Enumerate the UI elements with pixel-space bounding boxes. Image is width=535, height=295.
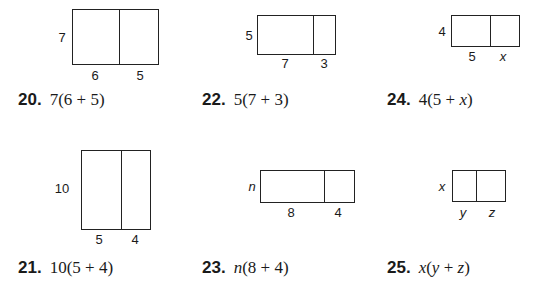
problem-label: 24.4(5 + x) bbox=[387, 90, 473, 110]
rectangle-divider bbox=[476, 171, 477, 201]
area-rectangle bbox=[257, 15, 336, 55]
area-rectangle bbox=[260, 170, 355, 203]
area-rectangle bbox=[81, 150, 151, 230]
area-rectangle bbox=[451, 15, 520, 47]
problem-expression: x(y + z) bbox=[419, 258, 470, 277]
part-width-label: 5 bbox=[95, 233, 102, 246]
problem-expression: 7(6 + 5) bbox=[50, 90, 105, 109]
problem-label: 21.10(5 + 4) bbox=[18, 258, 113, 278]
problem-label: 23.n(8 + 4) bbox=[202, 258, 289, 278]
problem-number: 23. bbox=[202, 258, 226, 277]
part-width-label: z bbox=[489, 206, 496, 219]
problem-label: 25.x(y + z) bbox=[387, 258, 470, 278]
area-rectangle bbox=[452, 170, 506, 202]
side-length-label: 4 bbox=[438, 25, 445, 38]
part-width-label: y bbox=[460, 206, 467, 219]
part-width-label: 5 bbox=[468, 50, 475, 63]
problem-number: 25. bbox=[387, 258, 411, 277]
problem-number: 22. bbox=[202, 90, 226, 109]
part-width-label: 6 bbox=[91, 69, 98, 82]
side-length-label: x bbox=[439, 180, 446, 193]
problem-label: 20.7(6 + 5) bbox=[18, 90, 105, 110]
rectangle-divider bbox=[121, 151, 122, 229]
problem-expression: 10(5 + 4) bbox=[50, 258, 113, 277]
problem-expression: 4(5 + x) bbox=[419, 90, 473, 109]
problem-number: 21. bbox=[18, 258, 42, 277]
problem-number: 24. bbox=[387, 90, 411, 109]
rectangle-divider bbox=[324, 171, 325, 202]
problem-expression: n(8 + 4) bbox=[234, 258, 289, 277]
part-width-label: 3 bbox=[320, 57, 327, 70]
problem-label: 22.5(7 + 3) bbox=[202, 90, 289, 110]
problem-number: 20. bbox=[18, 90, 42, 109]
rectangle-divider bbox=[313, 16, 314, 54]
rectangle-divider bbox=[490, 16, 491, 46]
rectangle-divider bbox=[119, 10, 120, 64]
part-width-label: x bbox=[500, 50, 507, 63]
part-width-label: 4 bbox=[334, 206, 341, 219]
side-length-label: 10 bbox=[55, 182, 69, 195]
part-width-label: 8 bbox=[287, 206, 294, 219]
part-width-label: 5 bbox=[136, 69, 143, 82]
part-width-label: 4 bbox=[131, 233, 138, 246]
area-rectangle bbox=[72, 9, 159, 65]
side-length-label: n bbox=[248, 180, 255, 193]
problem-expression: 5(7 + 3) bbox=[234, 90, 289, 109]
side-length-label: 7 bbox=[58, 31, 65, 44]
part-width-label: 7 bbox=[281, 57, 288, 70]
side-length-label: 5 bbox=[245, 29, 252, 42]
